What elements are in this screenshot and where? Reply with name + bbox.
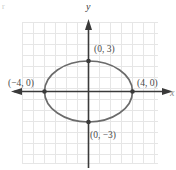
y-axis-arrowhead <box>85 19 92 30</box>
point-bottom <box>86 120 91 125</box>
point-top <box>86 59 91 64</box>
point-label-left: (−4, 0) <box>8 78 34 88</box>
point-left <box>42 89 47 94</box>
grid-lines <box>22 22 158 164</box>
point-right <box>130 89 135 94</box>
ellipse-graph-figure: r <box>0 0 176 170</box>
y-axis-label: y <box>86 1 90 12</box>
x-axis-arrowhead-left <box>11 88 22 95</box>
point-label-top: (0, 3) <box>94 44 115 54</box>
x-axis-label: x <box>170 87 174 98</box>
axes <box>11 19 173 168</box>
point-label-right: (4, 0) <box>137 78 158 88</box>
point-label-bottom: (0, −3) <box>90 130 116 140</box>
